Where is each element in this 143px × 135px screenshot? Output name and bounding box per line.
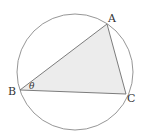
vertex-label-c: C xyxy=(127,92,135,105)
diagram-canvas: A B C θ xyxy=(0,0,143,135)
vertex-label-a: A xyxy=(107,12,117,25)
angle-label-theta: θ xyxy=(29,81,35,91)
triangle-abc xyxy=(20,24,126,94)
geometry-figure: A B C θ xyxy=(0,0,143,135)
vertex-label-b: B xyxy=(8,85,16,98)
